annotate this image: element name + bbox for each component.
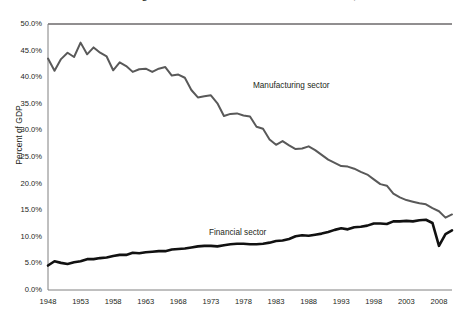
series-label-manufacturing: Manufacturing sector [253,81,329,91]
plot-area [0,0,460,323]
series-line-manufacturing-sector [48,43,452,218]
series-label-financial: Financial sector [209,228,266,238]
series-line-financial-sector [48,220,452,266]
chart-figure: Manufacturing and financial sector share… [0,0,460,323]
